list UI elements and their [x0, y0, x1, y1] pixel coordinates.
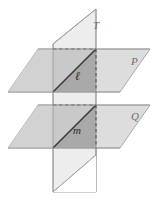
line-label-m: m: [73, 125, 81, 136]
geometry-figure: T P Q ℓ m: [0, 0, 163, 206]
plane-label-q: Q: [131, 111, 139, 122]
plane-label-p: P: [131, 56, 138, 67]
geometry-diagram: [0, 0, 163, 206]
plane-label-t: T: [93, 20, 99, 31]
line-label-l: ℓ: [75, 70, 80, 82]
plane-p-left-wing: [8, 49, 53, 92]
plane-q-left-wing: [8, 105, 53, 148]
